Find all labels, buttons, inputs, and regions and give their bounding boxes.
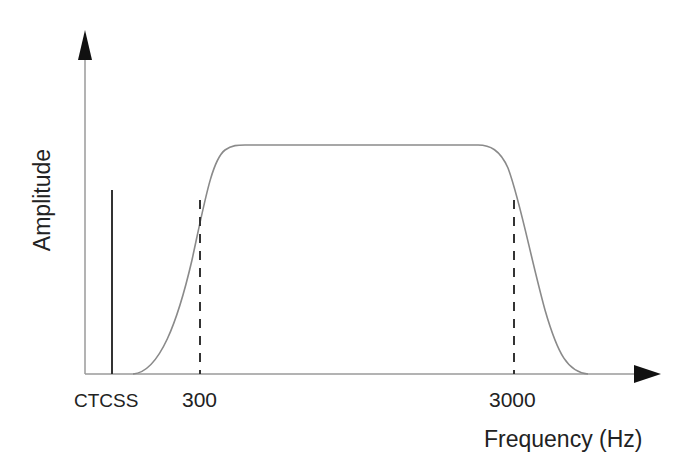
y-axis-label: Amplitude (29, 149, 56, 251)
x-axis-arrow-icon (634, 365, 661, 383)
tick-label-300: 300 (182, 388, 217, 412)
x-axis-label: Frequency (Hz) (484, 426, 642, 453)
y-axis-arrow-icon (78, 30, 92, 60)
tick-label-3000: 3000 (489, 388, 536, 412)
ctcss-tick-label: CTCSS (74, 390, 138, 412)
passband-curve (133, 145, 588, 374)
